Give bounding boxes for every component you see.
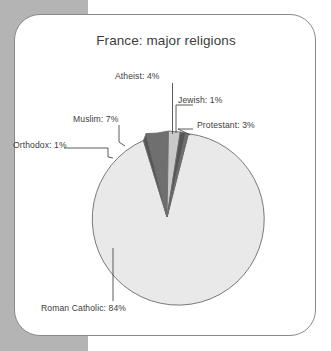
leader-line-muslim (119, 125, 125, 146)
pie-svg (15, 15, 317, 337)
pie-label-muslim: Muslim: 7% (73, 114, 118, 124)
pie-label-jewish: Jewish: 1% (178, 95, 222, 105)
pie-label-protestant: Protestant: 3% (197, 120, 255, 130)
figure-root: France: major religions (0, 0, 331, 351)
chart-card: France: major religions (14, 14, 316, 336)
pie-label-atheist: Atheist: 4% (115, 71, 160, 81)
leader-line-orthodox (64, 148, 113, 158)
pie-label-orthodox: Orthodox: 1% (13, 140, 67, 150)
pie-label-roman-catholic: Roman Catholic: 84% (41, 303, 126, 313)
pie-chart (15, 15, 317, 337)
